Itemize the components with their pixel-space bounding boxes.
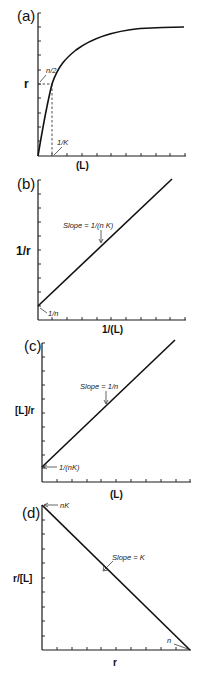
panel-d-y-label: r/[L] [13,573,32,584]
panel-a-binding-curve [38,27,184,156]
panel-c-slope-label: Slope = 1/n [80,382,118,391]
panel-a-x-label: (L) [76,160,89,171]
panel-d-y-intercept-label: nK [60,501,70,510]
panel-b-label: (b) [17,175,35,192]
panel-c-label: (c) [24,337,42,354]
panel-d-x-intercept-label: n [167,636,171,645]
panel-b-x-label: 1/(L) [102,324,123,335]
panel-c-regression-line [42,340,175,467]
panel-d-scatchard-line [42,505,190,650]
panel-a-anno-half: n/2 [46,66,57,75]
panel-b-y-label: 1/r [16,244,31,258]
panel-d: (d) Slope = K nK [13,501,191,668]
panel-a-anno-half-arrow [40,75,46,82]
panel-b-intercept-arrow [40,308,47,313]
panel-c-x-label: (L) [110,489,123,500]
panel-d-slope-label: Slope = K [112,553,146,562]
binding-plots-figure: (a) [0,0,199,676]
panel-b-regression-line [38,179,172,306]
panel-b: (b) Slope = 1/(n K) [16,175,186,335]
panel-c-y-label: [L]/r [15,405,35,416]
panel-a-anno-k-arrow [54,147,62,155]
panel-c: (c) Slope = 1/n [15,337,191,500]
panel-d-slope-arrow [104,561,113,570]
panel-a-label: (a) [17,7,35,24]
panel-a-anno-k: 1/K [57,138,69,147]
panel-b-slope-label: Slope = 1/(n K) [63,221,114,230]
panel-c-intercept-label: 1/(nK) [59,463,80,472]
panel-d-x-label: r [113,657,117,668]
panel-a: (a) [17,7,186,171]
panel-a-y-label: r [24,77,29,91]
panel-d-label: (d) [22,504,40,521]
panel-b-intercept-label: 1/n [48,309,58,318]
